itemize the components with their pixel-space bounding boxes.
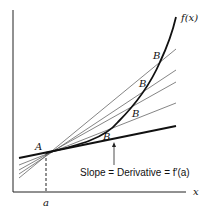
a-tick-label: a <box>43 197 49 208</box>
derivative-diagram: f(x) A B B B B x a Slope = Derivative = … <box>0 0 216 214</box>
tangent-line <box>19 126 176 158</box>
x-axis-label: x <box>193 186 199 197</box>
point-b-label-4: B <box>102 131 110 142</box>
point-a-label: A <box>34 141 42 152</box>
secant-line-3 <box>19 82 176 170</box>
point-b-label-3: B <box>131 108 139 119</box>
secant-lines <box>19 49 176 178</box>
point-b-label-2: B <box>138 78 146 89</box>
function-label: f(x) <box>180 12 198 23</box>
secant-line-2 <box>19 70 176 174</box>
annotation-arrow-head <box>112 142 116 147</box>
secant-line-4 <box>19 103 176 165</box>
point-b-label-1: B <box>152 50 160 61</box>
function-curve <box>46 17 176 153</box>
slope-annotation: Slope = Derivative = f′(a) <box>80 167 190 178</box>
